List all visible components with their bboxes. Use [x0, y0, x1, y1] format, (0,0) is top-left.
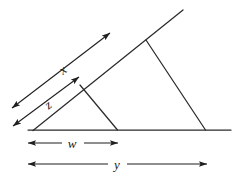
large-triangle-right-side [146, 40, 206, 130]
small-triangle-right-side [80, 85, 118, 130]
long-slant-ray [33, 10, 183, 131]
label-z: z [40, 97, 54, 113]
label-w: w [68, 136, 77, 151]
geometry-diagram: x z w y [0, 0, 244, 179]
figure-canvas: x z w y [0, 0, 244, 179]
label-y: y [112, 157, 120, 172]
dimension-arrows [12, 33, 207, 164]
dimension-labels: x z w y [40, 62, 120, 172]
label-x: x [55, 62, 70, 78]
